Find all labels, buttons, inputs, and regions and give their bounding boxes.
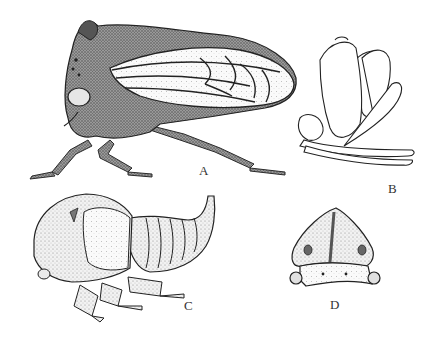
ocellus-left [322,273,325,276]
ocellus-right [345,273,348,276]
panel-b-outline [298,37,414,165]
panel-label-c: C [184,298,193,314]
legs [30,126,285,179]
compound-eye [68,88,90,106]
compound-eye-right [368,272,380,284]
compound-eye-left [290,272,302,284]
left-eye-spot [304,245,312,255]
nymph-legs [74,277,184,322]
wing-pad [83,208,130,270]
right-eye-spot [358,245,366,255]
panel-a-adult-treehopper [30,21,296,179]
panel-label-b: B [388,181,397,197]
panel-label-a: A [199,163,208,179]
panel-label-d: D [330,297,339,313]
front-face [300,263,372,286]
illustration-plate [0,0,442,344]
nymph-eye [38,269,50,279]
panel-d-front-view [290,208,380,286]
